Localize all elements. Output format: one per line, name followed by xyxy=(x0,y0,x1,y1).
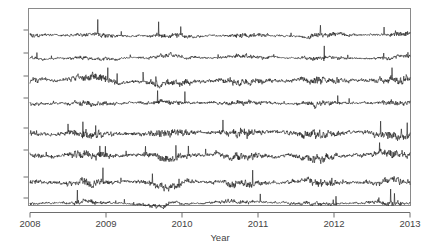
x-tick-label: 2012 xyxy=(323,218,344,229)
chart-background xyxy=(0,0,434,252)
x-axis-title: Year xyxy=(210,232,229,243)
x-tick-label: 2010 xyxy=(171,218,192,229)
x-tick-label: 2008 xyxy=(19,218,40,229)
time-series-plot: 200820092010201120122013 Year xyxy=(0,0,434,252)
chart-figure: 200820092010201120122013 Year xyxy=(0,0,434,252)
x-tick-label: 2013 xyxy=(399,218,420,229)
x-tick-label: 2009 xyxy=(95,218,116,229)
x-tick-label: 2011 xyxy=(248,218,268,229)
